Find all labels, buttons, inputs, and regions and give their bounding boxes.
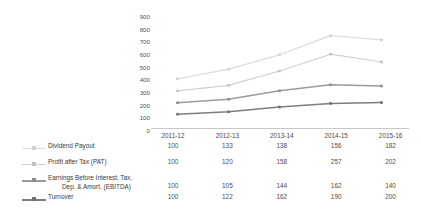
series-line [178, 103, 382, 115]
data-point-marker [227, 98, 230, 101]
data-point-marker [380, 61, 383, 64]
table-cell-value: 133 [200, 142, 254, 149]
legend-marker-icon [22, 178, 46, 183]
y-axis-tick-label: 100 [124, 115, 150, 121]
legend-label: Profit after Tax (PAT) [48, 158, 146, 166]
table-cell-value: 105 [200, 182, 254, 189]
data-point-marker [176, 78, 179, 81]
data-point-marker [380, 85, 383, 88]
data-point-marker [329, 84, 332, 87]
x-axis-category-label: 2012-13 [200, 129, 254, 143]
line-series-group [152, 20, 407, 128]
legend-marker-icon [22, 146, 46, 151]
table-cell-value: 257 [309, 158, 363, 165]
legend-marker-icon [22, 162, 46, 167]
y-axis-tick-label: 900 [124, 14, 150, 20]
x-axis-category-label: 2013-14 [255, 129, 309, 143]
table-cell-value: 156 [309, 142, 363, 149]
y-axis-tick-label: 200 [124, 103, 150, 109]
table-cell-value: 200 [364, 193, 418, 200]
table-cell-value: 100 [146, 193, 200, 200]
table-cell-value: 202 [364, 158, 418, 165]
series-2 [176, 53, 383, 92]
data-table: Dividend Payout100133138156182Profit aft… [0, 142, 421, 210]
table-cell-value: 138 [255, 142, 309, 149]
table-cell-value: 144 [255, 182, 309, 189]
data-point-marker [278, 54, 281, 57]
legend-dot [32, 197, 36, 201]
y-axis-tick-label: 700 [124, 39, 150, 45]
data-point-marker [176, 90, 179, 93]
data-point-marker [278, 106, 281, 109]
x-axis-category-label: 2014-15 [309, 129, 363, 143]
y-axis-tick-label: 400 [124, 77, 150, 83]
table-cell-value: 190 [309, 193, 363, 200]
legend-label-line2: Dep. & Amort. (EBITDA) [48, 183, 146, 192]
data-point-marker [227, 111, 230, 114]
y-axis-tick-label: 800 [124, 27, 150, 33]
legend-label: Turnover [48, 193, 146, 201]
table-cell-value: 162 [255, 193, 309, 200]
data-point-marker [380, 101, 383, 104]
legend-dot [32, 178, 36, 182]
data-point-marker [329, 34, 332, 37]
chart-container: 9008007006005004003002001000 2011-122012… [0, 0, 421, 213]
data-point-marker [227, 84, 230, 87]
y-axis-tick-label: 500 [124, 65, 150, 71]
table-cell-value: 158 [255, 158, 309, 165]
table-cell-value: 140 [364, 182, 418, 189]
data-point-marker [329, 53, 332, 56]
data-point-marker [278, 70, 281, 73]
y-axis-tick-label: 300 [124, 90, 150, 96]
plot-area [152, 20, 407, 128]
data-point-marker [227, 68, 230, 71]
table-cell-value: 122 [200, 193, 254, 200]
legend-label-line1: Earnings Before Interest, Tax, [48, 174, 132, 181]
data-point-marker [176, 102, 179, 105]
table-cell-value: 100 [146, 142, 200, 149]
y-axis-tick-label: 600 [124, 52, 150, 58]
legend-marker-icon [22, 197, 46, 202]
x-axis-category-label: 2011-12 [146, 129, 200, 143]
legend-dot [32, 162, 36, 166]
legend-dot [32, 146, 36, 150]
table-cell-value: 182 [364, 142, 418, 149]
legend-label: Dividend Payout [48, 142, 146, 150]
table-cell-value: 100 [146, 158, 200, 165]
y-axis: 9008007006005004003002001000 [124, 14, 150, 134]
table-cell-value: 100 [146, 182, 200, 189]
legend-label: Earnings Before Interest, Tax,Dep. & Amo… [48, 174, 146, 191]
x-axis-categories: 2011-122012-132013-142014-152015-16 [146, 129, 418, 143]
data-point-marker [278, 90, 281, 93]
series-4 [176, 101, 383, 115]
series-3 [176, 84, 383, 105]
table-cell-value: 162 [309, 182, 363, 189]
data-point-marker [176, 113, 179, 116]
data-point-marker [329, 102, 332, 105]
data-point-marker [380, 39, 383, 42]
table-cell-value: 120 [200, 158, 254, 165]
x-axis-category-label: 2015-16 [364, 129, 418, 143]
